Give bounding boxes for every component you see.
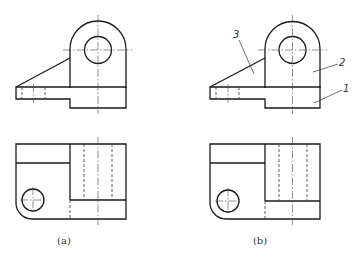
base-outline [210,87,320,108]
top-view-outline [16,144,126,219]
view-b: 3 2 1 (b) [210,15,349,246]
part-number-3: 3 [233,29,239,40]
leader-line-2 [313,64,338,72]
top-view-b [210,137,320,225]
view-a: (a) [16,15,132,246]
caption-b: (b) [253,235,267,246]
drawing-canvas: (a) 3 2 1 [0,0,356,259]
base-outline [16,87,126,108]
rib-edge [210,58,265,87]
leader-line-3 [239,40,254,74]
front-view-a [16,15,132,114]
front-view-b: 3 2 1 [210,15,349,114]
part-number-2: 2 [339,57,345,68]
part-number-1: 1 [343,83,349,94]
rib-edge [16,58,70,87]
caption-a: (a) [57,235,71,246]
leader-line-1 [314,90,342,103]
top-view-a [16,137,126,225]
